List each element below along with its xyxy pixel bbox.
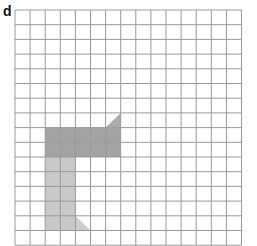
square-grid-diagram: [0, 0, 257, 246]
top-right-triangle: [106, 113, 121, 128]
bottom-triangle: [75, 216, 90, 231]
